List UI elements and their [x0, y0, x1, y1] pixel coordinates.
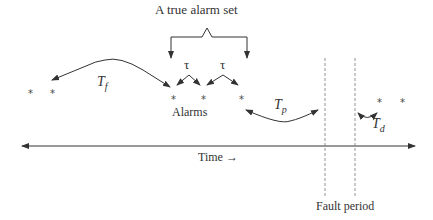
alarm-marker: * — [50, 89, 55, 99]
tau1-arc — [177, 75, 200, 85]
Td-label: Td — [372, 116, 385, 132]
alarm-marker: * — [171, 95, 176, 105]
alarm-marker: * — [201, 95, 206, 105]
time-label: Time → — [198, 150, 238, 165]
alarm-marker: * — [400, 98, 405, 108]
tau2-label: τ — [220, 57, 225, 73]
diagram-canvas — [0, 0, 433, 220]
alarm-marker: * — [28, 89, 33, 99]
Tf-label: Tf — [97, 74, 108, 90]
fault-period-label: Fault period — [316, 199, 374, 214]
Tf-arc — [52, 59, 170, 87]
alarm-marker: * — [377, 98, 382, 108]
true-alarm-set-bracket — [171, 28, 247, 37]
tau2-arc — [207, 75, 238, 85]
alarm-marker: * — [239, 95, 244, 105]
Tp-label: Tp — [274, 97, 287, 113]
tau1-label: τ — [184, 57, 189, 73]
alarms-label: Alarms — [172, 105, 207, 120]
time-arrow-icon: → — [226, 150, 238, 164]
alarm-timeline-diagram: * * * * * * * A true alarm set Alarms τ … — [0, 0, 433, 220]
true-alarm-set-label: A true alarm set — [155, 2, 238, 18]
